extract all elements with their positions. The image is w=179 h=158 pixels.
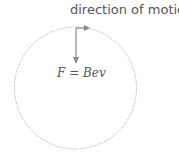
velocity-arrow [76,25,90,31]
force-formula: F = Bev [57,66,106,80]
direction-of-motion-label: direction of motion [70,2,179,17]
force-arrow [73,28,79,64]
